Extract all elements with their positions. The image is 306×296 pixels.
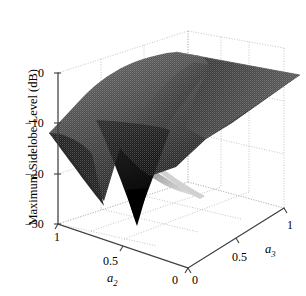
y-axis-title-sub: 3 [271, 249, 275, 259]
y-axis-title: a3 [265, 243, 276, 258]
surface-plot-canvas [0, 0, 306, 296]
y-tick-label-1: 1 [287, 219, 293, 231]
x-tick-label-1: 1 [54, 231, 60, 243]
x-tick-label-0: 0 [172, 274, 178, 286]
figure-3d-surface-plot: 0 −10 −20 −30 1 0.5 0 0 0.5 1 Maximum Si… [0, 0, 306, 296]
y-tick-label-0point5: 0.5 [232, 251, 247, 263]
surface-valley-tip [126, 188, 148, 226]
x-axis-title: a2 [107, 272, 118, 287]
surface-mesh [49, 52, 300, 226]
x-axis-title-sub: 2 [113, 278, 117, 288]
z-axis-title: Maximum Sidelobe Level (dB) [27, 52, 40, 242]
y-tick-label-0: 0 [192, 274, 198, 286]
x-tick-label-0point5: 0.5 [103, 255, 118, 267]
